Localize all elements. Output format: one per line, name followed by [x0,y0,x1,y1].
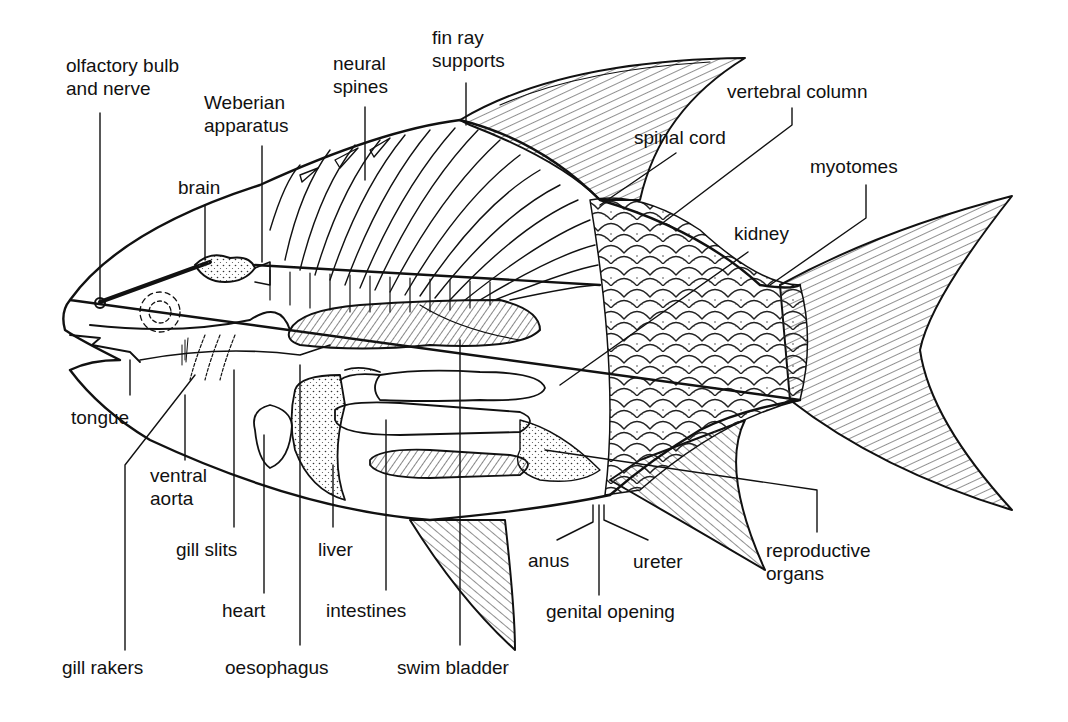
label-ventral-aorta: ventral aorta [150,464,207,510]
label-fin-ray-supports: fin ray supports [432,26,505,72]
label-line: supports [432,49,505,72]
fish-anatomy-diagram: olfactory bulb and nerve Weberian appara… [0,0,1068,722]
label-line: neural [333,52,388,75]
brain-shape [195,255,255,282]
label-weberian-apparatus: Weberian apparatus [204,91,289,137]
label-line: Weberian [204,91,289,114]
label-reproductive-organs: reproductive organs [766,539,871,585]
label-liver: liver [318,538,353,561]
label-gill-rakers: gill rakers [62,656,143,679]
label-line: ventral [150,464,207,487]
intestines-shape [335,368,545,478]
label-vertebral-column: vertebral column [727,80,867,103]
oesophagus-shape [140,345,330,360]
label-intestines: intestines [326,599,406,622]
label-ureter: ureter [633,550,683,573]
label-line: spines [333,75,388,98]
fish-illustration [0,0,1068,722]
label-line: fin ray [432,26,505,49]
label-oesophagus: oesophagus [225,656,329,679]
label-heart: heart [222,599,265,622]
swim-bladder-shape [289,300,540,349]
label-line: reproductive [766,539,871,562]
reproductive-organ-shape [518,420,601,481]
vertebral-column [255,265,600,285]
label-line: olfactory bulb [66,54,179,77]
label-genital-opening: genital opening [546,600,675,623]
pelvic-fin [410,520,515,650]
gill-rakers-shape [182,338,188,365]
gill-slits-shape [190,335,235,380]
label-spinal-cord: spinal cord [634,126,726,149]
heart-shape [254,405,292,468]
label-line: apparatus [204,114,289,137]
label-swim-bladder: swim bladder [397,656,509,679]
label-anus: anus [528,549,569,572]
label-line: organs [766,562,871,585]
label-gill-slits: gill slits [176,538,237,561]
label-neural-spines: neural spines [333,52,388,98]
label-olfactory-bulb: olfactory bulb and nerve [66,54,179,100]
label-brain: brain [178,176,220,199]
olfactory-nerve [100,262,210,302]
label-kidney: kidney [734,222,789,245]
label-myotomes: myotomes [810,155,898,178]
label-line: aorta [150,487,207,510]
label-line: and nerve [66,77,179,100]
label-tongue: tongue [71,406,129,429]
caudal-fin [780,196,1012,510]
